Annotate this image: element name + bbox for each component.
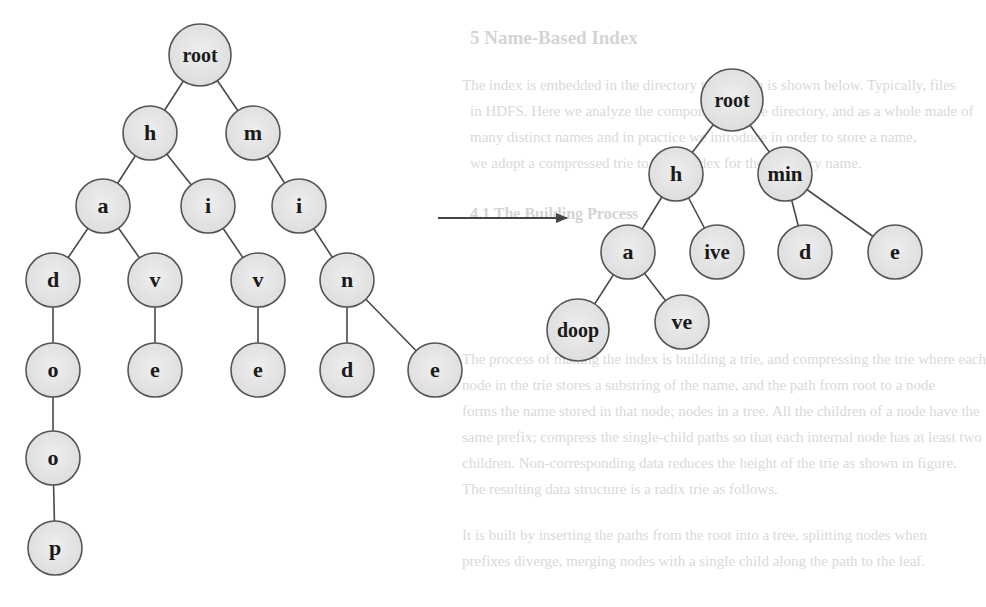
left-node-e: e	[408, 343, 462, 397]
left-node-a: a	[76, 179, 130, 233]
right-trie-edges	[578, 100, 895, 330]
node-label: n	[341, 267, 353, 292]
node-label: d	[799, 239, 811, 264]
left-node-v: v	[231, 253, 285, 307]
node-label: a	[98, 193, 109, 218]
right-node-h: h	[649, 147, 703, 201]
left-node-n: n	[320, 253, 374, 307]
left-node-root: root	[169, 24, 231, 86]
node-label: i	[296, 193, 302, 218]
node-label: h	[144, 120, 156, 145]
node-label: e	[430, 357, 440, 382]
node-label: root	[714, 89, 750, 111]
node-label: ve	[672, 309, 693, 334]
node-label: h	[670, 161, 682, 186]
right-node-a: a	[601, 225, 655, 279]
right-node-doop: doop	[547, 299, 609, 361]
right-node-ve: ve	[655, 295, 709, 349]
left-node-d: d	[320, 343, 374, 397]
node-label: e	[150, 357, 160, 382]
node-label: v	[150, 267, 161, 292]
node-label: p	[49, 535, 61, 560]
right-node-min: min	[758, 147, 812, 201]
left-node-v: v	[128, 253, 182, 307]
node-label: d	[47, 267, 59, 292]
node-label: o	[48, 357, 59, 382]
right-node-root: root	[701, 69, 763, 131]
node-label: doop	[557, 319, 599, 342]
left-node-p: p	[28, 521, 82, 575]
left-node-o: o	[26, 431, 80, 485]
node-label: o	[48, 445, 59, 470]
right-node-ive: ive	[690, 225, 744, 279]
node-label: ive	[704, 240, 730, 264]
right-node-e: e	[868, 225, 922, 279]
left-node-m: m	[226, 106, 280, 160]
node-label: a	[623, 239, 634, 264]
node-label: min	[767, 162, 802, 186]
node-label: e	[890, 239, 900, 264]
left-node-e: e	[231, 343, 285, 397]
node-label: m	[244, 120, 262, 145]
node-label: root	[182, 44, 218, 66]
node-label: d	[341, 357, 353, 382]
left-node-h: h	[123, 106, 177, 160]
node-label: v	[253, 267, 264, 292]
left-node-e: e	[128, 343, 182, 397]
left-node-o: o	[26, 343, 80, 397]
left-node-i: i	[272, 179, 326, 233]
left-node-i: i	[181, 179, 235, 233]
node-label: i	[205, 193, 211, 218]
right-node-d: d	[778, 225, 832, 279]
node-label: e	[253, 357, 263, 382]
left-trie: roothmaiidvvnoeedeop	[26, 24, 462, 575]
left-node-d: d	[26, 253, 80, 307]
right-trie: roothminaivededoopve	[547, 69, 922, 361]
